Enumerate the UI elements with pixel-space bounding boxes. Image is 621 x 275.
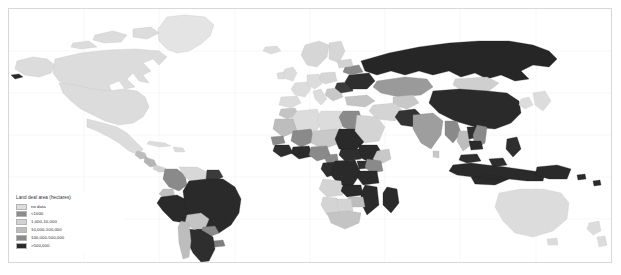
legend-label-10k-100k: 10,000-100,000 (31, 227, 62, 233)
legend-item-1k-10k: 1,000-10,000 (16, 219, 122, 226)
map-legend: Land deal area (hectares) no data <1000 … (14, 193, 124, 253)
legend-label-no-data: no data (31, 204, 46, 210)
region-ireland (277, 72, 285, 79)
legend-label-under-1000: <1000 (31, 211, 43, 217)
legend-swatch-no-data (16, 204, 27, 210)
legend-item-10k-100k: 10,000-100,000 (16, 226, 122, 233)
region-sri-lanka (433, 151, 439, 158)
legend-label-1k-10k: 1,000-10,000 (31, 219, 57, 225)
legend-swatch-under-1000 (16, 211, 27, 217)
legend-item-no-data: no data (16, 203, 122, 210)
legend-swatch-1k-10k (16, 219, 27, 225)
legend-label-100k-500k: 100,000-500,000 (31, 235, 64, 241)
world-map-figure: Land deal area (hectares) no data <1000 … (0, 0, 621, 275)
region-cambodia (469, 141, 483, 150)
legend-label-over-500k: >500,000 (31, 243, 49, 249)
region-botswana (337, 199, 353, 212)
legend-swatch-100k-500k (16, 235, 27, 241)
region-uruguay (213, 240, 225, 247)
legend-item-over-500k: >500,000 (16, 242, 122, 249)
legend-item-under-1000: <1000 (16, 211, 122, 218)
legend-item-100k-500k: 100,000-500,000 (16, 234, 122, 241)
legend-title: Land deal area (hectares) (16, 195, 122, 201)
legend-swatch-10k-100k (16, 227, 27, 233)
legend-swatch-over-500k (16, 243, 27, 249)
region-tasmania (547, 238, 558, 245)
